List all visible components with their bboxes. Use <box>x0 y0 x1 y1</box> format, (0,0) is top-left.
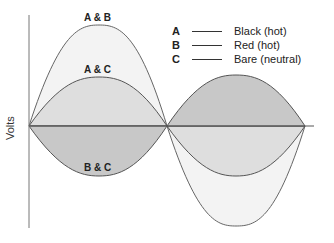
legend-label: Black (hot) <box>234 25 287 37</box>
legend-line-icon <box>192 45 222 46</box>
legend-line-icon <box>192 31 222 32</box>
legend-line-icon <box>192 59 222 60</box>
legend-label: Bare (neutral) <box>234 53 301 65</box>
ac-label: A & C <box>84 64 111 75</box>
legend-key: B <box>172 39 186 51</box>
legend-key: C <box>172 53 186 65</box>
legend-item-b: B Red (hot) <box>172 38 280 52</box>
legend-label: Red (hot) <box>234 39 280 51</box>
legend-item-c: C Bare (neutral) <box>172 52 301 66</box>
bc-label: B & C <box>84 162 111 173</box>
volts-axis-label: Volts <box>4 116 16 140</box>
legend-item-a: A Black (hot) <box>172 24 287 38</box>
bc-positive-lobe <box>167 75 305 126</box>
legend-key: A <box>172 25 186 37</box>
ab-label: A & B <box>84 12 111 23</box>
